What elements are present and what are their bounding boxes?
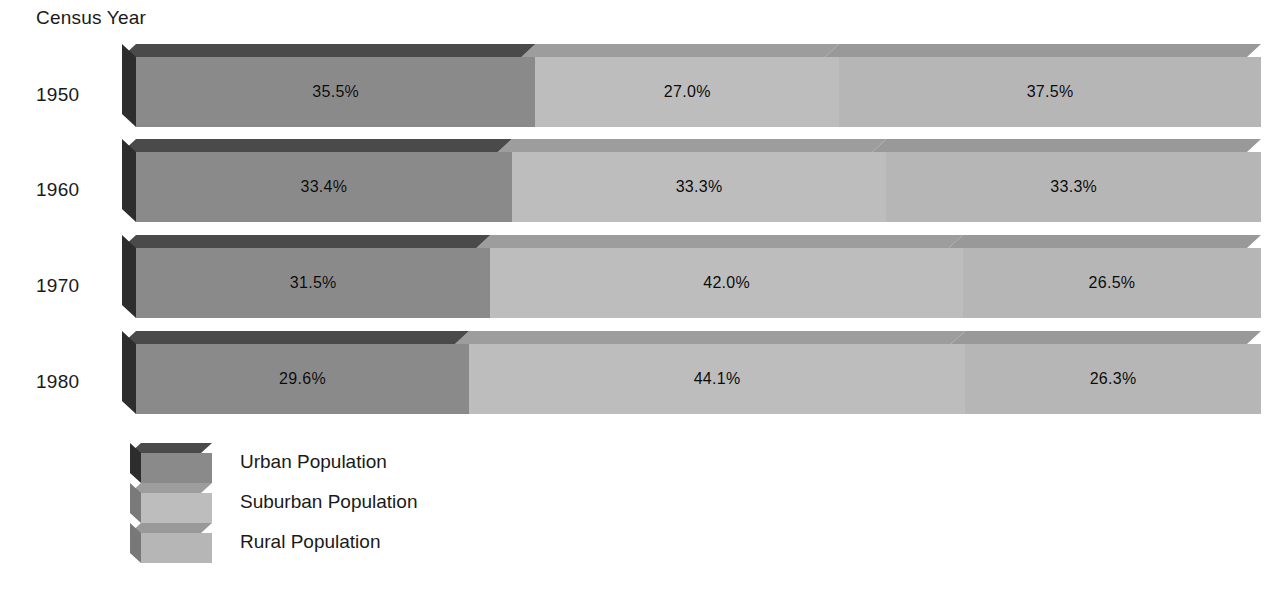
bar-front-face: 33.4%33.3%33.3% — [136, 152, 1261, 222]
legend-swatch-top-face — [130, 443, 212, 453]
bar-segment-rural: 26.5% — [963, 248, 1261, 318]
bar-front-face: 29.6%44.1%26.3% — [136, 344, 1261, 414]
rural-swatch — [130, 523, 212, 563]
bar-top-face — [872, 139, 1261, 152]
category-label-1970: 1970 — [36, 275, 79, 297]
bar-top-face — [521, 44, 839, 57]
bar-value-label: 33.3% — [676, 178, 723, 196]
stacked-bar-1980: 29.6%44.1%26.3% — [122, 331, 1261, 414]
bar-side-face — [122, 139, 136, 222]
bar-front-face: 35.5%27.0%37.5% — [136, 57, 1261, 127]
bar-row: 196033.4%33.3%33.3% — [0, 139, 1284, 229]
bar-row: 197031.5%42.0%26.5% — [0, 235, 1284, 325]
bar-top-face — [122, 139, 512, 152]
urban-swatch — [130, 443, 212, 483]
bar-side-face — [122, 331, 136, 414]
bar-value-label: 29.6% — [279, 370, 326, 388]
stacked-bar-1970: 31.5%42.0%26.5% — [122, 235, 1261, 318]
bar-segment-urban: 35.5% — [136, 57, 535, 127]
legend-swatch-top-face — [130, 483, 212, 493]
legend-swatch-front-face — [141, 493, 212, 523]
bar-segment-suburban: 27.0% — [535, 57, 839, 127]
bar-value-label: 31.5% — [290, 274, 337, 292]
legend-label: Rural Population — [240, 531, 380, 553]
stacked-bar-1960: 33.4%33.3%33.3% — [122, 139, 1261, 222]
stacked-bar-1950: 35.5%27.0%37.5% — [122, 44, 1261, 127]
bar-value-label: 27.0% — [664, 83, 711, 101]
category-label-1950: 1950 — [36, 84, 79, 106]
bar-segment-urban: 29.6% — [136, 344, 469, 414]
bar-top-face — [122, 44, 535, 57]
bar-row: 198029.6%44.1%26.3% — [0, 331, 1284, 421]
bar-value-label: 33.4% — [300, 178, 347, 196]
bar-side-face — [122, 44, 136, 127]
legend-label: Suburban Population — [240, 491, 417, 513]
bar-segment-rural: 37.5% — [839, 57, 1261, 127]
bar-top-face — [476, 235, 963, 248]
legend-label: Urban Population — [240, 451, 387, 473]
bar-top-face — [122, 235, 490, 248]
bar-value-label: 26.5% — [1089, 274, 1136, 292]
bar-value-label: 26.3% — [1090, 370, 1137, 388]
legend-swatch-top-face — [130, 523, 212, 533]
bar-segment-urban: 33.4% — [136, 152, 512, 222]
category-label-1980: 1980 — [36, 371, 79, 393]
bar-value-label: 37.5% — [1027, 83, 1074, 101]
bar-top-face — [949, 235, 1261, 248]
chart-legend: Urban PopulationSuburban PopulationRural… — [130, 443, 650, 563]
legend-swatch-front-face — [141, 533, 212, 563]
bar-segment-suburban: 42.0% — [490, 248, 963, 318]
bar-value-label: 44.1% — [694, 370, 741, 388]
suburban-swatch — [130, 483, 212, 523]
plot-area: 195035.5%27.0%37.5%196033.4%33.3%33.3%19… — [0, 0, 1284, 440]
bar-segment-rural: 26.3% — [965, 344, 1261, 414]
bar-segment-suburban: 44.1% — [469, 344, 965, 414]
bar-row: 195035.5%27.0%37.5% — [0, 44, 1284, 134]
legend-item[interactable]: Suburban Population — [130, 483, 650, 523]
bar-segment-urban: 31.5% — [136, 248, 490, 318]
bar-value-label: 35.5% — [312, 83, 359, 101]
bar-top-face — [122, 331, 469, 344]
bar-top-face — [951, 331, 1261, 344]
bar-segment-rural: 33.3% — [886, 152, 1261, 222]
bar-value-label: 33.3% — [1050, 178, 1097, 196]
category-label-1960: 1960 — [36, 179, 79, 201]
legend-item[interactable]: Urban Population — [130, 443, 650, 483]
bar-side-face — [122, 235, 136, 318]
legend-swatch-front-face — [141, 453, 212, 483]
bar-top-face — [825, 44, 1261, 57]
bar-top-face — [498, 139, 887, 152]
bar-front-face: 31.5%42.0%26.5% — [136, 248, 1261, 318]
stacked-bar-chart: Census Year 195035.5%27.0%37.5%196033.4%… — [0, 0, 1284, 593]
bar-segment-suburban: 33.3% — [512, 152, 887, 222]
bar-top-face — [455, 331, 965, 344]
legend-item[interactable]: Rural Population — [130, 523, 650, 563]
bar-value-label: 42.0% — [703, 274, 750, 292]
